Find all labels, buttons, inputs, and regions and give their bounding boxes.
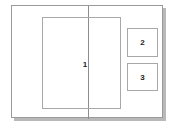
region-main-label: 1 [80, 60, 90, 69]
region-aside-top[interactable]: 2 [127, 28, 158, 57]
region-aside-bottom-label: 3 [140, 73, 144, 82]
page-frame[interactable]: 1 2 3 [11, 5, 163, 118]
diagram-canvas: 1 2 3 [0, 0, 175, 130]
region-aside-top-label: 2 [140, 38, 144, 47]
region-aside-bottom[interactable]: 3 [127, 63, 158, 91]
